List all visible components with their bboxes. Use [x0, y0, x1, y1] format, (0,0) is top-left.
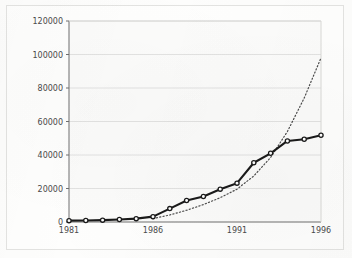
x-axis-ticks: 1981198619911996 [59, 226, 331, 235]
data-point-marker [252, 161, 256, 165]
data-point-marker [101, 218, 105, 222]
data-point-marker [117, 217, 121, 221]
x-tick-label: 1981 [59, 226, 79, 235]
chart-page: 020000400006000080000100000120000 198119… [0, 0, 352, 258]
data-point-marker [285, 139, 289, 143]
data-point-marker [201, 194, 205, 198]
x-tick-label: 1991 [227, 226, 247, 235]
data-point-marker [302, 137, 306, 141]
data-point-marker [151, 215, 155, 219]
y-tick-label: 80000 [38, 84, 63, 93]
y-axis-ticks: 020000400006000080000100000120000 [32, 17, 69, 227]
y-tick-label: 40000 [38, 151, 63, 160]
data-point-marker [67, 219, 71, 223]
y-tick-label: 100000 [32, 51, 63, 60]
data-point-marker [269, 151, 273, 155]
data-point-marker [168, 207, 172, 211]
y-tick-label: 120000 [32, 17, 63, 26]
line-chart: 020000400006000080000100000120000 198119… [0, 0, 352, 258]
data-point-marker [185, 198, 189, 202]
y-tick-label: 60000 [38, 118, 63, 127]
x-tick-label: 1996 [311, 226, 331, 235]
data-point-marker [84, 218, 88, 222]
data-point-marker [319, 133, 323, 137]
data-point-marker [134, 217, 138, 221]
x-tick-label: 1986 [143, 226, 163, 235]
y-tick-label: 20000 [38, 185, 63, 194]
data-point-marker [218, 187, 222, 191]
data-point-marker [235, 181, 239, 185]
